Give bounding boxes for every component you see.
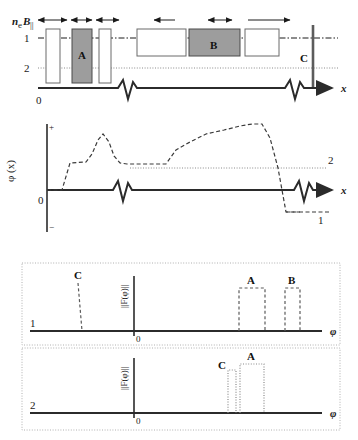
peak-label-C-2: C xyxy=(218,359,226,371)
panel4-index-label: 2 xyxy=(30,399,36,411)
potential-curve xyxy=(47,124,300,212)
figure-svg: 1 2 n e B || A B C xyxy=(0,0,358,440)
slab-open-left-2 xyxy=(99,29,111,83)
peak-B-1 xyxy=(285,288,300,331)
region-label-C: C xyxy=(300,52,308,64)
panel1-ylabel-e: e xyxy=(18,20,22,30)
peak-label-A-1: A xyxy=(247,274,255,286)
panel1-ylabel: n e B || xyxy=(12,15,34,30)
slab-open-left-1 xyxy=(46,29,60,83)
potential-minus-label: − xyxy=(49,222,54,232)
peak-A-2 xyxy=(240,364,264,413)
panel4-origin-label: 0 xyxy=(136,416,141,426)
panel3-origin-label: 0 xyxy=(136,334,141,344)
potential-level-2-label: 2 xyxy=(328,154,334,166)
panel-potential: 2 1 + − φ (x) 0 x xyxy=(4,122,347,232)
level-label-1: 1 xyxy=(24,32,30,44)
panel3-y-axis-label: ||F(φ)|| xyxy=(119,284,129,308)
panel-spectrum-2: φ 0 ||F(φ)|| 2 C A xyxy=(22,348,340,430)
peak-label-B-1: B xyxy=(288,274,296,286)
panel4-y-axis-label: ||F(φ)|| xyxy=(119,366,129,390)
slab-open-right-2 xyxy=(245,29,279,56)
panel-spectrum-1: φ 0 ||F(φ)|| 1 C A B xyxy=(22,263,340,345)
peak-C-1 xyxy=(78,283,82,331)
panel2-y-axis-label: φ (x) xyxy=(4,160,17,182)
region-label-A: A xyxy=(78,49,86,61)
slab-open-right-1 xyxy=(137,29,186,56)
peak-A-1 xyxy=(239,288,265,331)
potential-level-1-label: 1 xyxy=(318,214,324,226)
panel1-x-axis-label: x xyxy=(340,82,347,94)
panel3-x-axis-label: φ xyxy=(330,325,337,337)
panel2-x-axis-label: x xyxy=(340,184,347,196)
level-label-2: 2 xyxy=(24,62,30,74)
peak-label-C-1: C xyxy=(74,269,82,281)
region-label-B: B xyxy=(210,39,218,51)
panel3-index-label: 1 xyxy=(30,317,36,329)
peak-C-2 xyxy=(228,370,236,413)
panel1-origin-label: 0 xyxy=(36,94,42,106)
peak-label-A-2: A xyxy=(247,350,255,362)
panel2-x-axis xyxy=(47,181,332,201)
panel4-x-axis-label: φ xyxy=(330,407,337,419)
figure-root: 1 2 n e B || A B C xyxy=(0,0,358,440)
panel1-ylabel-parallel: || xyxy=(30,20,34,30)
panel-density-field: 1 2 n e B || A B C xyxy=(12,15,347,106)
potential-plus-label: + xyxy=(49,122,54,132)
panel2-origin-label: 0 xyxy=(38,194,44,206)
panel4-border xyxy=(22,348,340,430)
